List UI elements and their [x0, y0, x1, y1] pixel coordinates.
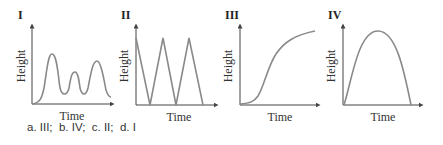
- curve-s-shaped: [240, 31, 315, 104]
- y-axis-label: Height: [221, 49, 235, 82]
- y-axis-label: Height: [117, 49, 131, 82]
- y-axis-label: Height: [324, 49, 338, 82]
- curve-oscillating: [32, 54, 111, 104]
- answer-key: a. III; b. IV; c. II; d. I: [27, 121, 136, 133]
- graph-panel-3: III Height Time: [221, 8, 318, 124]
- panel-label-3: III: [225, 8, 239, 22]
- graph-panel-2: II Height Time: [117, 8, 216, 124]
- panel-label-4: IV: [328, 8, 342, 22]
- x-axis-label: Time: [371, 110, 396, 124]
- curve-parabola: [344, 31, 411, 105]
- panel-label-2: II: [121, 8, 131, 22]
- x-axis-label: Time: [268, 110, 293, 124]
- x-axis-label: Time: [167, 110, 192, 124]
- graph-panel-4: IV Height Time: [324, 8, 421, 124]
- panel-label-1: I: [18, 8, 23, 22]
- graph-figure: I Height Time II Height Time III Height …: [0, 0, 443, 145]
- curve-triangle-wave: [136, 38, 203, 105]
- graph-panel-1: I Height Time: [14, 8, 112, 123]
- y-axis-label: Height: [14, 49, 28, 82]
